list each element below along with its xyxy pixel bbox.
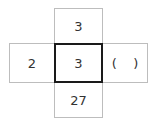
cell-top: 3 (54, 8, 103, 44)
cell-left: 2 (9, 43, 55, 83)
cell-bottom: 27 (54, 82, 103, 118)
cell-right-blank: ( ) (102, 43, 148, 83)
cell-center: 3 (54, 43, 103, 83)
